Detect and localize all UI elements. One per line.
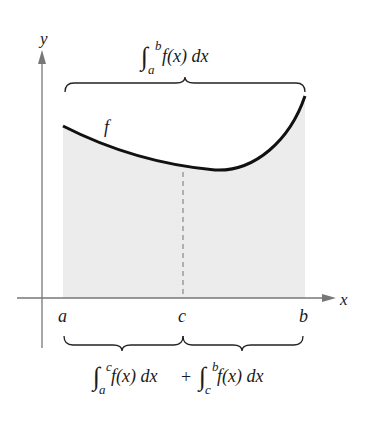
- x-axis-label: x: [339, 290, 348, 309]
- bottom-left-integral-integrand: f(x) dx: [111, 366, 157, 387]
- curve-f-label: f: [104, 117, 112, 137]
- plus-sign: +: [181, 367, 191, 387]
- top-brace: [65, 77, 305, 92]
- top-integral-upper: b: [155, 38, 162, 53]
- bottom-right-integral-lower: c: [205, 382, 211, 397]
- x-axis-arrow-icon: [322, 294, 336, 302]
- point-a-label: a: [58, 306, 67, 326]
- integral-diagram: y x a c b f ∫ b a f(x) dx ∫ c a f(x) dx …: [0, 0, 371, 422]
- bottom-right-integral-integrand: f(x) dx: [217, 366, 263, 387]
- bottom-brace-left: [64, 336, 183, 351]
- top-integral-lower: a: [148, 62, 155, 77]
- y-axis-label: y: [38, 29, 48, 48]
- bottom-left-integral-lower: a: [99, 382, 106, 397]
- y-axis-arrow-icon: [38, 50, 46, 64]
- shaded-area: [63, 96, 305, 298]
- point-b-label: b: [299, 306, 308, 326]
- point-c-label: c: [178, 306, 186, 326]
- top-integral-integrand: f(x) dx: [162, 46, 208, 67]
- bottom-brace-right: [183, 336, 303, 351]
